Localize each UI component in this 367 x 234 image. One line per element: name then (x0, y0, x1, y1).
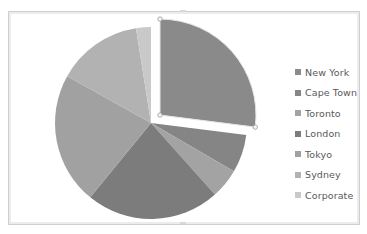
legend-item-sydney[interactable]: Sydney (295, 165, 365, 186)
legend-item-corporate[interactable]: Corporate (295, 185, 365, 206)
legend-item-new-york[interactable]: New York (295, 62, 365, 83)
legend-swatch (295, 151, 301, 157)
legend-swatch (295, 110, 301, 116)
legend-label: Toronto (305, 108, 341, 119)
legend-label: New York (305, 67, 349, 78)
pie-slices (55, 19, 256, 219)
legend-label: Corporate (305, 190, 353, 201)
legend-label: Tokyo (305, 149, 332, 160)
legend-swatch (295, 172, 301, 178)
pie-slice-new-york[interactable] (160, 19, 256, 127)
legend-item-tokyo[interactable]: Tokyo (295, 144, 365, 165)
legend-item-toronto[interactable]: Toronto (295, 103, 365, 124)
legend-item-london[interactable]: London (295, 124, 365, 145)
legend: New York Cape Town Toronto London Tokyo … (295, 62, 365, 206)
legend-label: London (305, 128, 340, 139)
selection-handle[interactable] (158, 113, 162, 117)
legend-swatch (295, 69, 301, 75)
legend-swatch (295, 131, 301, 137)
legend-item-cape-town[interactable]: Cape Town (295, 83, 365, 104)
legend-label: Sydney (305, 169, 341, 180)
legend-swatch (295, 192, 301, 198)
selection-handle[interactable] (158, 17, 162, 21)
legend-swatch (295, 90, 301, 96)
selection-handle[interactable] (253, 125, 257, 129)
legend-label: Cape Town (305, 87, 357, 98)
